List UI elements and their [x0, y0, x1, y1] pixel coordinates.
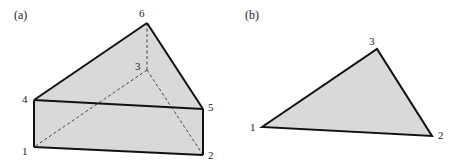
- vertex-label-1: 1: [22, 145, 28, 157]
- vertex-label-3: 3: [369, 35, 375, 47]
- diagram-canvas: (a) 6 3 4 5 1 2 (b) 3 1 2: [0, 0, 460, 165]
- vertex-label-1: 1: [250, 121, 256, 133]
- vertex-label-4: 4: [22, 93, 28, 105]
- panel-b-label: (b): [245, 8, 259, 22]
- vertex-label-2: 2: [438, 129, 444, 141]
- vertex-label-5: 5: [208, 101, 214, 113]
- triangle-face: [262, 49, 432, 136]
- prism-top-face: [34, 23, 203, 109]
- vertex-label-2: 2: [208, 149, 214, 161]
- vertex-label-3: 3: [135, 60, 141, 72]
- panel-b: (b) 3 1 2: [245, 8, 444, 141]
- vertex-label-6: 6: [139, 7, 145, 19]
- panel-a: (a) 6 3 4 5 1 2: [14, 7, 214, 161]
- panel-a-label: (a): [14, 8, 27, 22]
